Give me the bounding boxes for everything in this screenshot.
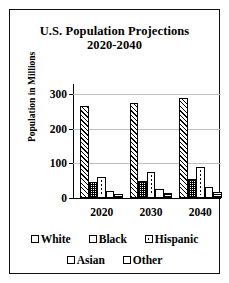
legend-row: WhiteBlackHispanic — [10, 228, 219, 249]
legend-swatch-other-icon — [123, 256, 131, 264]
chart-title-line-1: U.S. Population Projections — [10, 24, 219, 38]
bar-other-2030 — [164, 193, 173, 198]
y-axis-tick-label: 200 — [50, 123, 67, 135]
y-axis-tick-label: 100 — [50, 157, 67, 169]
legend-item-hispanic[interactable]: Hispanic — [145, 233, 198, 245]
bar-black-2020 — [89, 182, 98, 198]
bar-white-2030 — [130, 103, 139, 198]
bar-hispanic-2020 — [97, 177, 106, 198]
legend-row: AsianOther — [10, 249, 219, 270]
chart-frame: U.S. Population Projections 2020-2040 Po… — [9, 9, 220, 274]
gridline — [73, 129, 221, 130]
legend-label: Hispanic — [155, 233, 198, 245]
legend-swatch-hispanic-icon — [145, 235, 153, 243]
y-axis-line — [73, 84, 74, 199]
bar-asian-2030 — [155, 189, 164, 198]
bar-hispanic-2040 — [196, 167, 205, 198]
bar-other-2040 — [213, 192, 222, 198]
bar-white-2040 — [179, 98, 188, 198]
y-axis-tick — [69, 163, 73, 164]
bar-black-2030 — [138, 181, 147, 198]
x-axis-tick-label: 2020 — [90, 206, 113, 218]
bar-asian-2040 — [205, 187, 214, 198]
bar-black-2040 — [188, 179, 197, 198]
legend-swatch-white-icon — [31, 235, 39, 243]
x-axis-tick-label: 2040 — [189, 206, 212, 218]
legend-label: Black — [99, 233, 127, 245]
bar-hispanic-2030 — [147, 172, 156, 198]
plot-area: 0100200300 202020302040 — [73, 84, 221, 199]
y-axis-tick-label: 0 — [61, 192, 67, 204]
chart-title-line-2: 2020-2040 — [10, 38, 219, 52]
legend-label: Asian — [77, 254, 105, 266]
legend-label: Other — [133, 254, 162, 266]
x-axis-tick-label: 2030 — [140, 206, 163, 218]
gridline — [73, 163, 221, 164]
y-axis-tick — [69, 129, 73, 130]
bar-white-2020 — [80, 106, 89, 198]
legend-item-black[interactable]: Black — [89, 233, 127, 245]
legend-label: White — [41, 233, 71, 245]
legend-swatch-black-icon — [89, 235, 97, 243]
chart-legend: WhiteBlackHispanicAsianOther — [10, 228, 219, 270]
legend-swatch-asian-icon — [67, 256, 75, 264]
bar-asian-2020 — [106, 191, 115, 198]
y-axis-tick-label: 300 — [50, 88, 67, 100]
legend-item-white[interactable]: White — [31, 233, 71, 245]
legend-item-asian[interactable]: Asian — [67, 254, 105, 266]
legend-item-other[interactable]: Other — [123, 254, 162, 266]
gridline — [73, 198, 221, 199]
bar-other-2020 — [114, 194, 123, 198]
y-axis-tick — [69, 94, 73, 95]
y-axis-label: Population in Millions — [27, 52, 37, 142]
chart-title: U.S. Population Projections 2020-2040 — [10, 24, 219, 52]
y-axis-tick — [69, 198, 73, 199]
gridline — [73, 94, 221, 95]
